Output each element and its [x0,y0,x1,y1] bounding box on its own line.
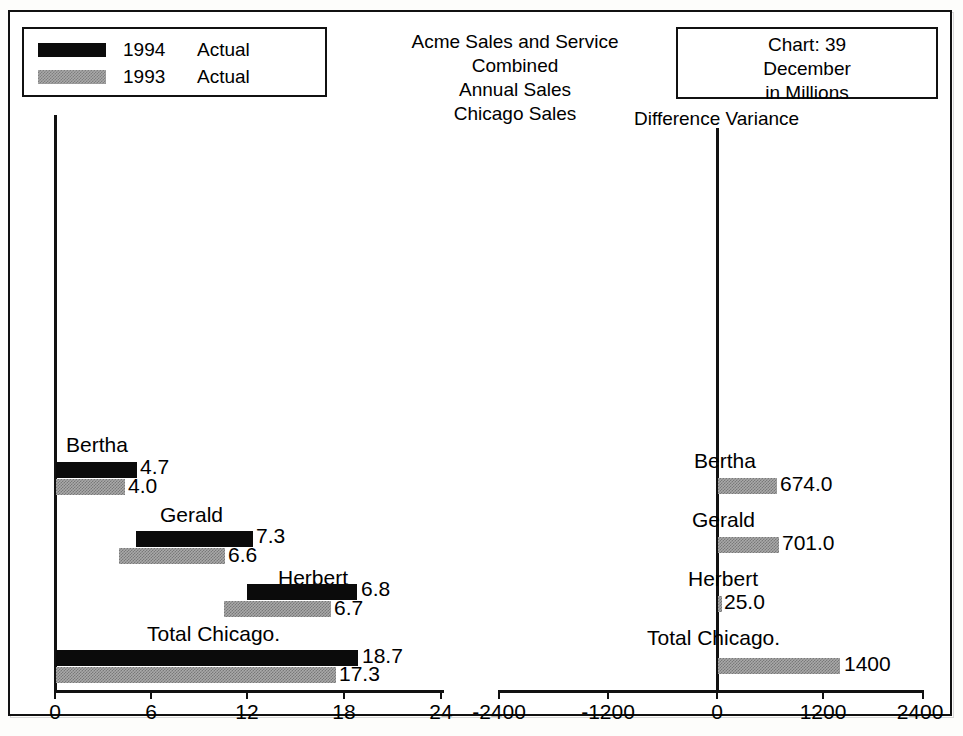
axis-tick [54,690,56,699]
variance-label-bertha: Bertha [694,449,756,473]
value-label-variance-gerald: 701.0 [782,531,835,555]
axis-tick-label: 0 [49,700,61,724]
axis-tick [822,690,824,699]
axis-tick [150,690,152,699]
axis-tick [716,690,718,699]
bar-variance-bertha [718,478,777,494]
bar-1993-gerald [119,548,225,564]
value-label-1994-gerald: 7.3 [256,524,285,548]
category-label-total-chicago: Total Chicago. [147,622,280,646]
axis-tick-label: -2400 [472,700,526,724]
axis-tick [440,690,442,699]
axis-tick [607,690,609,699]
axis-tick [343,690,345,699]
variance-label-herbert: Herbert [688,567,758,591]
axis-tick-label: 12 [235,700,258,724]
left-category-axis [54,690,444,693]
bar-1993-total-chicago [56,667,336,683]
axis-tick-label: 1200 [800,700,847,724]
axis-tick-label: -1200 [581,700,635,724]
value-label-variance-herbert: 25.0 [724,590,765,614]
value-label-variance-total-chicago: 1400 [844,652,891,676]
axis-tick-label: 2400 [897,700,944,724]
value-label-1994-herbert: 6.8 [361,577,390,601]
axis-tick-label: 18 [332,700,355,724]
left-value-axis [54,115,57,693]
variance-label-gerald: Gerald [692,508,755,532]
axis-tick-label: 0 [711,700,723,724]
variance-label-total-chicago: Total Chicago. [647,626,780,650]
bar-1994-bertha [56,462,137,478]
bar-1994-total-chicago [56,650,358,666]
bar-1993-herbert [224,601,331,617]
chart-page: 1994 Actual 1993 Actual Acme Sales and S… [0,0,963,736]
value-label-1993-bertha: 4.0 [128,474,157,498]
difference-variance-plot: -2400 -1200 0 1200 2400 Bertha 674.0 Ger… [470,0,963,736]
bar-variance-herbert [718,596,722,612]
bar-variance-total-chicago [718,658,840,674]
value-label-1993-gerald: 6.6 [228,543,257,567]
bar-1993-bertha [56,479,125,495]
axis-tick-label: 6 [145,700,157,724]
category-label-bertha: Bertha [66,433,128,457]
value-label-1993-herbert: 6.7 [334,596,363,620]
category-label-gerald: Gerald [160,503,223,527]
axis-tick-label: 24 [429,700,452,724]
value-label-1993-total-chicago: 17.3 [339,662,380,686]
axis-tick [922,690,924,699]
axis-tick [246,690,248,699]
actual-sales-plot: 0 6 12 18 24 Bertha 4.7 4.0 Gerald 7.3 6… [0,0,470,736]
axis-tick [498,690,500,699]
value-label-variance-bertha: 674.0 [780,472,833,496]
right-value-axis [498,690,923,693]
bar-variance-gerald [718,537,779,553]
